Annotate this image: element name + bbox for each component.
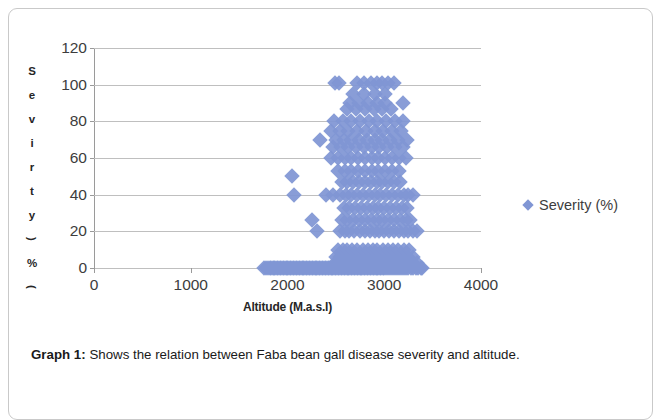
gridline <box>94 121 481 122</box>
gridline <box>94 158 481 159</box>
legend-entry-label: Severity (%) <box>539 197 618 213</box>
scatter-point <box>285 169 301 185</box>
y-axis-title-char: S <box>22 59 42 83</box>
y-axis-title-char: v <box>22 107 42 131</box>
scatter-point <box>286 187 302 203</box>
y-axis-title-char: e <box>22 83 42 107</box>
y-axis-title-char: ( <box>20 277 44 297</box>
x-tick-label: 0 <box>90 276 99 294</box>
y-axis-tick <box>90 158 94 159</box>
x-axis-tick <box>481 268 482 273</box>
x-axis-title: Altitude (M.a.s.l) <box>94 300 481 314</box>
y-axis-tick <box>90 121 94 122</box>
figure-card: Sevirty)%( 020406080100120 0100020003000… <box>8 8 653 420</box>
x-tick-label: 1000 <box>174 276 208 294</box>
y-tick-label: 80 <box>70 112 87 130</box>
y-tick-label: 20 <box>70 222 87 240</box>
gridline <box>94 48 481 49</box>
x-tick-label: 3000 <box>367 276 401 294</box>
y-axis-title-char: i <box>22 131 42 155</box>
y-axis-title-char: y <box>22 203 42 227</box>
diamond-marker-icon <box>522 199 533 210</box>
y-tick-label: 120 <box>61 39 87 57</box>
y-tick-label: 0 <box>78 259 87 277</box>
y-axis-title-char: ) <box>20 229 44 249</box>
y-tick-label: 100 <box>61 76 87 94</box>
y-axis-tick <box>90 85 94 86</box>
y-axis-tick <box>90 231 94 232</box>
x-tick-label: 4000 <box>464 276 498 294</box>
chart-area: Sevirty)%( 020406080100120 0100020003000… <box>9 9 654 334</box>
caption-text: Shows the relation between Faba bean gal… <box>86 347 520 362</box>
y-axis-title-char: r <box>22 155 42 179</box>
y-axis-tick <box>90 48 94 49</box>
y-tick-label: 40 <box>70 186 87 204</box>
plot-area: 020406080100120 01000200030004000 <box>94 48 481 268</box>
figure-caption: Graph 1: Shows the relation between Faba… <box>31 345 639 364</box>
caption-label: Graph 1: <box>31 347 86 362</box>
gridline <box>94 85 481 86</box>
y-axis-title: Sevirty)%( <box>22 59 42 299</box>
chart-legend: Severity (%) <box>524 197 618 213</box>
y-axis-tick <box>90 195 94 196</box>
x-axis-tick <box>94 268 95 273</box>
x-tick-label: 2000 <box>270 276 304 294</box>
y-axis-title-char: % <box>22 251 42 275</box>
y-tick-label: 60 <box>70 149 87 167</box>
x-axis-tick <box>191 268 192 273</box>
y-axis-title-char: t <box>22 179 42 203</box>
